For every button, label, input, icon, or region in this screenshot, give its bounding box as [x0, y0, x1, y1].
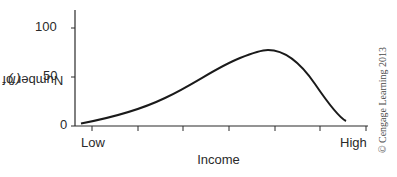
- y-axis-title: (f) Number of cases: [4, 20, 24, 140]
- x-axis-label: Income: [197, 152, 240, 167]
- x-tick-label-low: Low: [81, 135, 105, 150]
- copyright-notice: © Cengage Learning 2013: [374, 40, 390, 160]
- x-ticks: [92, 126, 366, 131]
- x-axis-title: Income: [0, 150, 397, 168]
- copyright-text: © Cengage Learning 2013: [377, 47, 388, 153]
- y-tick-label-0: 0: [60, 117, 67, 132]
- income-cases-curve: [81, 50, 346, 124]
- y-tick-label-50: 50: [43, 68, 57, 83]
- y-tick-label-100: 100: [35, 19, 57, 34]
- x-tick-label-high: High: [340, 135, 367, 150]
